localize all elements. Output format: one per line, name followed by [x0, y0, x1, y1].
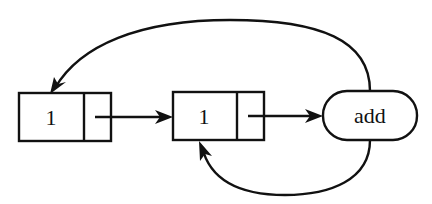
edge-add-to-cell-2 — [199, 140, 370, 195]
procedure-add-label: add — [354, 103, 386, 128]
cell-1-value: 1 — [46, 105, 57, 130]
procedure-add: add — [323, 91, 417, 140]
edge-add-to-cell-1 — [50, 20, 370, 94]
arrowhead-icon — [50, 77, 66, 94]
cell-2-value: 1 — [199, 104, 210, 129]
linked-list-diagram: 1 1 add — [0, 0, 432, 204]
